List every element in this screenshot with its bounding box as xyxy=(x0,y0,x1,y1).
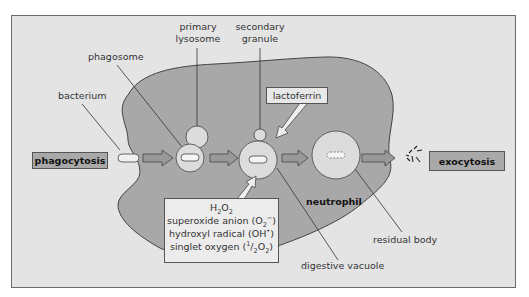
primary-lysosome-label-line2: lysosome xyxy=(174,33,222,45)
residual-body-debris xyxy=(327,152,345,158)
ros-superoxide: superoxide anion (O2−) xyxy=(165,214,278,227)
secondary-granule-label: secondary granule xyxy=(232,21,288,45)
secondary-granule-label-line1: secondary xyxy=(232,21,288,33)
phagocytosis-box: phagocytosis xyxy=(32,152,108,169)
neutrophil-label: neutrophil xyxy=(306,196,362,207)
primary-lysosome-label-line1: primary xyxy=(174,21,222,33)
ros-hydroxyl: hydroxyl radical (OH•) xyxy=(165,227,278,240)
exocytosis-box: exocytosis xyxy=(429,151,505,171)
secondary-granule-shape xyxy=(254,129,266,141)
phagosome-label: phagosome xyxy=(88,51,144,63)
ros-h2o2: H2O2 xyxy=(165,201,278,214)
residual-body-label: residual body xyxy=(373,234,437,246)
phagosome-bacterium xyxy=(181,154,199,161)
bacterium-leader xyxy=(82,104,120,150)
ros-singlet-oxygen: singlet oxygen (1/2O2) xyxy=(165,240,278,253)
bacterium-shape xyxy=(118,154,139,162)
primary-lysosome-label: primary lysosome xyxy=(174,21,222,45)
reactive-oxygen-species-box: H2O2 superoxide anion (O2−) hydroxyl rad… xyxy=(164,198,279,263)
debris-fragments-icon xyxy=(406,146,422,162)
bacterium-label: bacterium xyxy=(58,90,106,102)
lactoferrin-box: lactoferrin xyxy=(266,87,328,104)
digestive-vacuole-label: digestive vacuole xyxy=(301,260,384,272)
secondary-granule-label-line2: granule xyxy=(232,33,288,45)
digestive-vacuole-bacterium xyxy=(249,156,267,163)
